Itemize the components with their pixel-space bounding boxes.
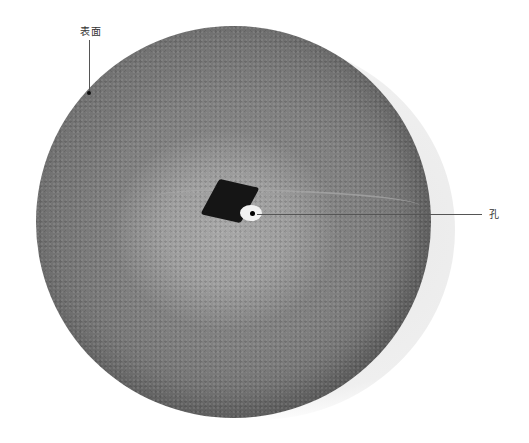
surface-label: 表面 <box>80 26 101 38</box>
hole-marker-dot <box>250 211 255 216</box>
hole-label: 孔 <box>489 209 500 221</box>
surface-marker-dot <box>87 91 91 95</box>
diagram-stage: 表面 孔 <box>0 0 529 443</box>
surface-leader-line <box>89 40 90 92</box>
hole-leader-line <box>257 214 482 215</box>
